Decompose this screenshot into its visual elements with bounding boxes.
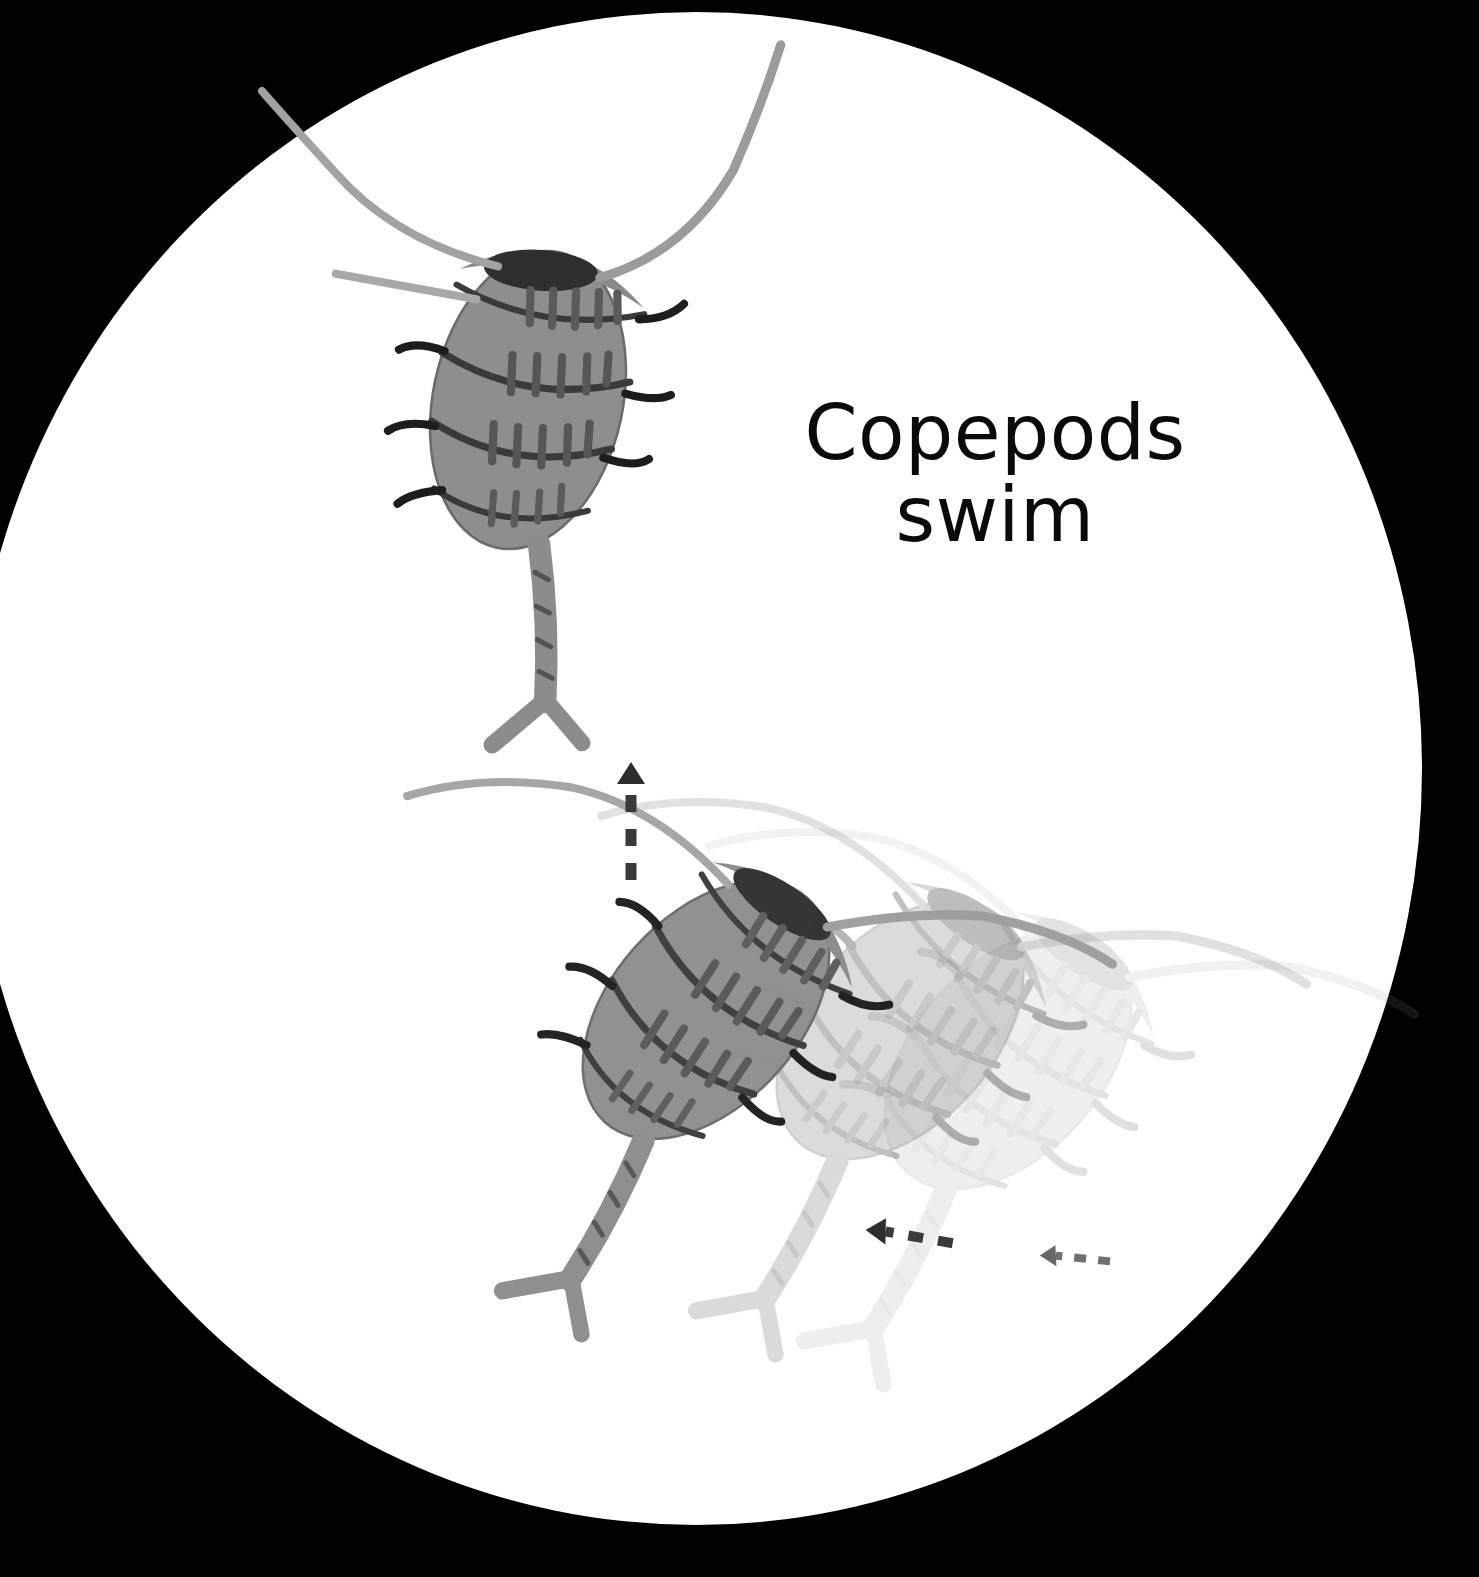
specimen-illustration [0, 0, 1479, 1577]
caption-line-2: swim [760, 474, 1230, 556]
caption-label: Copepods swim [760, 392, 1230, 556]
copepod-upper [139, 0, 781, 773]
arrow-up-vertical [617, 762, 645, 880]
caption-line-1: Copepods [804, 388, 1185, 477]
microscope-view: Copepods swim [0, 0, 1479, 1577]
arrow-left-secondary [1039, 1244, 1111, 1272]
